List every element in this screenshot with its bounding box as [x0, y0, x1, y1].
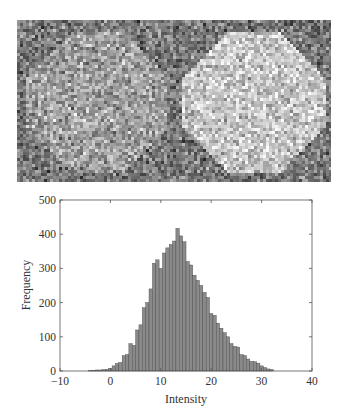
- histogram-bar: [142, 308, 145, 371]
- histogram-bar: [196, 280, 199, 371]
- histogram-bar: [250, 361, 253, 371]
- histogram-bar: [220, 328, 223, 371]
- histogram-bar: [152, 263, 155, 371]
- histogram-bar: [173, 241, 176, 371]
- histogram-bar: [236, 347, 239, 371]
- histogram-bar: [226, 337, 229, 371]
- histogram-bar: [199, 286, 202, 372]
- y-tick-label: 400: [39, 228, 57, 240]
- histogram-bar: [263, 368, 266, 371]
- histogram-bar: [162, 253, 165, 371]
- histogram-bar: [146, 303, 149, 371]
- histogram-bar: [246, 359, 249, 371]
- histogram-bar: [230, 344, 233, 371]
- noisy-image-panel: [17, 20, 331, 182]
- histogram-bar: [186, 262, 189, 371]
- histogram-bar: [176, 228, 179, 371]
- y-axis-label: Frequency: [19, 260, 33, 311]
- y-tick-label: 0: [50, 365, 56, 377]
- histogram-bar: [125, 355, 128, 371]
- histogram-bar: [257, 363, 260, 371]
- y-tick-label: 500: [39, 194, 57, 206]
- y-tick-label: 200: [39, 297, 57, 309]
- x-tick-label: 20: [205, 375, 217, 387]
- histogram-bar: [112, 366, 115, 371]
- y-tick-label: 100: [39, 331, 57, 343]
- histogram-chart: −10010203040 0100200300400500 Intensity …: [0, 185, 342, 414]
- histogram-bar: [183, 242, 186, 371]
- histogram-bar: [139, 325, 142, 371]
- histogram-bar: [149, 289, 152, 371]
- histogram-bar: [243, 356, 246, 371]
- histogram-bar: [166, 248, 169, 371]
- histogram-bar: [115, 363, 118, 371]
- histogram-bar: [216, 323, 219, 371]
- histogram-bar: [119, 362, 122, 371]
- y-tick-label: 300: [39, 262, 57, 274]
- x-tick-label: 30: [256, 375, 268, 387]
- histogram-bar: [189, 265, 192, 371]
- histogram-bar: [253, 362, 256, 371]
- x-tick-label: 40: [306, 375, 318, 387]
- histogram-bar: [129, 344, 132, 371]
- histogram-bar: [136, 330, 139, 371]
- histogram-bar: [169, 244, 172, 371]
- histogram-bar: [122, 356, 125, 371]
- x-tick-label: 10: [155, 375, 167, 387]
- x-tick-label: 0: [108, 375, 114, 387]
- histogram-bar: [240, 355, 243, 371]
- x-axis-label: Intensity: [165, 392, 207, 406]
- histogram-bar: [179, 236, 182, 371]
- histogram-bar: [210, 314, 213, 371]
- histogram-bar: [132, 345, 135, 371]
- histogram-bar: [233, 346, 236, 371]
- histogram-bar: [203, 292, 206, 371]
- histogram-bars: [89, 228, 274, 371]
- histogram-bar: [156, 260, 159, 371]
- histogram-bar: [159, 268, 162, 371]
- histogram-bar: [213, 315, 216, 371]
- histogram-bar: [193, 275, 196, 371]
- histogram-bar: [223, 333, 226, 371]
- histogram-bar: [206, 297, 209, 371]
